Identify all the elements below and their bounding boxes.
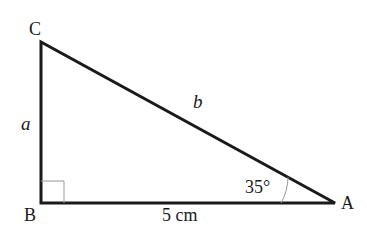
triangle-abc (41, 42, 335, 203)
side-label-b: b (193, 92, 203, 111)
angle-arc-a (281, 177, 288, 203)
vertex-label-a: A (341, 194, 354, 212)
side-label-base: 5 cm (162, 206, 198, 224)
vertex-label-c: C (29, 20, 41, 38)
triangle-figure (0, 0, 367, 239)
side-label-a: a (21, 114, 31, 133)
right-angle-marker (41, 181, 64, 203)
vertex-label-b: B (24, 206, 36, 224)
triangle-diagram: C B A a b 5 cm 35° (0, 0, 367, 239)
angle-label-a: 35° (245, 178, 270, 196)
